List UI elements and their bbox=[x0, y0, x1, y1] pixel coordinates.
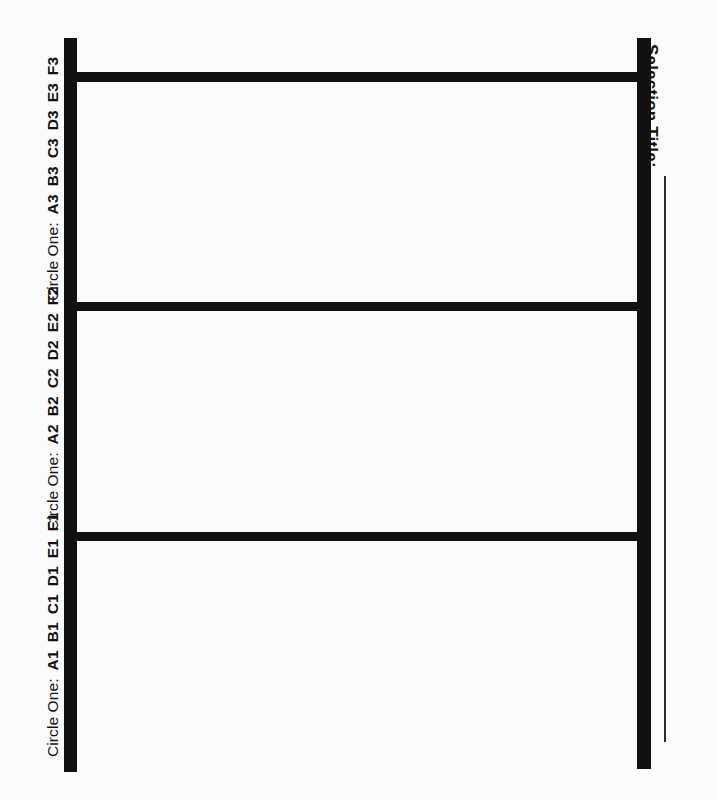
bottom-crossbar bbox=[64, 532, 651, 541]
circle-code-e2[interactable]: E2 bbox=[44, 313, 61, 332]
circle-code-c3[interactable]: C3 bbox=[44, 138, 61, 158]
circle-code-d3[interactable]: D3 bbox=[44, 110, 61, 130]
circle-code-f2[interactable]: F2 bbox=[44, 287, 61, 305]
circle-code-c2[interactable]: C2 bbox=[44, 368, 61, 388]
selection-slot-2[interactable] bbox=[77, 311, 637, 532]
circle-code-b2[interactable]: B2 bbox=[44, 396, 61, 416]
selection-title-text: Selection Title: bbox=[643, 44, 660, 168]
circle-code-a1[interactable]: A1 bbox=[44, 650, 61, 670]
circle-code-d2[interactable]: D2 bbox=[44, 340, 61, 360]
circle-code-f3[interactable]: F3 bbox=[44, 57, 61, 75]
circle-code-a3[interactable]: A3 bbox=[44, 194, 61, 214]
selection-slot-3[interactable] bbox=[77, 82, 637, 302]
circle-code-e1[interactable]: E1 bbox=[44, 539, 61, 558]
selection-title-writein-line[interactable] bbox=[664, 176, 666, 742]
selection-slot-1[interactable] bbox=[77, 541, 637, 771]
circle-code-c1[interactable]: C1 bbox=[44, 594, 61, 614]
top-crossbar bbox=[64, 72, 651, 82]
circle-code-a2[interactable]: A2 bbox=[44, 424, 61, 444]
circle-code-b3[interactable]: B3 bbox=[44, 166, 61, 186]
circle-code-d1[interactable]: D1 bbox=[44, 566, 61, 586]
circle-code-f1[interactable]: F1 bbox=[44, 513, 61, 531]
circle-code-e3[interactable]: E3 bbox=[44, 83, 61, 102]
form-page: Circle One:A3B3C3D3E3F3 Circle One:A2B2C… bbox=[0, 0, 717, 800]
circle-one-prefix-row-1: Circle One: bbox=[44, 678, 61, 757]
circle-code-b1[interactable]: B1 bbox=[44, 622, 61, 642]
middle-crossbar bbox=[64, 302, 651, 311]
left-rail bbox=[64, 38, 77, 772]
